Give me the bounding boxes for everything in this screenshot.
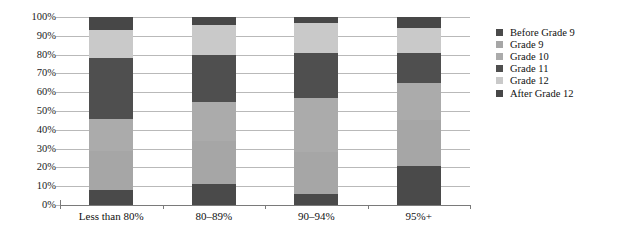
y-axis-tick-label: 0%	[4, 200, 56, 210]
y-axis-tick-label: 70%	[4, 68, 56, 78]
y-axis-tick-label: 60%	[4, 87, 56, 97]
y-axis-tick-label: 100%	[4, 12, 56, 22]
legend-swatch-icon	[496, 53, 503, 60]
x-axis-tick-mark	[470, 205, 471, 209]
bar-segment	[294, 152, 338, 193]
bar-segment	[89, 17, 133, 30]
y-axis-tick-label: 40%	[4, 125, 56, 135]
x-axis-tick-mark	[163, 205, 164, 209]
bar-segment	[397, 83, 441, 121]
y-axis-tick-mark	[56, 92, 60, 93]
bar-segment	[294, 23, 338, 53]
bar-segment	[192, 102, 236, 141]
y-axis-tick-mark	[56, 73, 60, 74]
legend-item[interactable]: Before Grade 9	[496, 26, 614, 38]
bar-segment	[397, 17, 441, 28]
bar-segment	[294, 98, 338, 153]
legend-item[interactable]: Grade 12	[496, 75, 614, 87]
y-axis-tick-mark	[56, 36, 60, 37]
bar-segment	[89, 151, 133, 190]
bar-segment	[397, 166, 441, 205]
bar-segment	[89, 190, 133, 205]
bar-segment	[192, 141, 236, 184]
legend-swatch-icon	[496, 65, 503, 72]
bar-segment	[397, 53, 441, 83]
y-axis-tick-label: 90%	[4, 31, 56, 41]
x-axis-tick-label: 95%+	[368, 209, 471, 223]
bar-column	[89, 17, 133, 205]
y-axis-tick-label: 10%	[4, 181, 56, 191]
y-axis-tick-mark	[56, 111, 60, 112]
x-axis-tick-label: 80–89%	[163, 209, 266, 223]
legend-item-label: Grade 9	[510, 39, 544, 50]
legend-item-label: Before Grade 9	[510, 27, 575, 38]
bar-column	[294, 17, 338, 205]
chart-legend: Before Grade 9Grade 9Grade 10Grade 11Gra…	[496, 26, 614, 99]
bar-segment	[89, 119, 133, 151]
bar-segment	[397, 28, 441, 52]
y-axis-tick-mark	[56, 130, 60, 131]
legend-item-label: Grade 11	[510, 63, 548, 74]
legend-item-label: Grade 10	[510, 51, 549, 62]
plot-area	[60, 17, 470, 205]
y-axis-tick-label: 80%	[4, 50, 56, 60]
bar-column	[192, 17, 236, 205]
x-axis-tick-label: Less than 80%	[60, 209, 163, 223]
legend-item[interactable]: Grade 11	[496, 63, 614, 75]
y-axis-tick-label: 30%	[4, 144, 56, 154]
bar-column	[397, 17, 441, 205]
bar-segment	[294, 194, 338, 205]
bar-segment	[192, 55, 236, 102]
y-axis-tick-mark	[56, 149, 60, 150]
legend-item[interactable]: Grade 10	[496, 50, 614, 62]
stacked-bar-chart: 0%10%20%30%40%50%60%70%80%90%100% Less t…	[0, 0, 618, 240]
legend-item-label: After Grade 12	[510, 88, 574, 99]
bar-segment	[192, 17, 236, 25]
y-axis-tick-mark	[56, 186, 60, 187]
legend-item[interactable]: After Grade 12	[496, 87, 614, 99]
x-axis-tick-mark	[265, 205, 266, 209]
legend-swatch-icon	[496, 90, 503, 97]
bar-segment	[89, 58, 133, 118]
bar-group	[60, 17, 470, 205]
legend-item[interactable]: Grade 9	[496, 38, 614, 50]
legend-swatch-icon	[496, 29, 503, 36]
bar-segment	[89, 30, 133, 58]
bar-segment	[192, 184, 236, 205]
bar-segment	[397, 120, 441, 165]
y-axis-labels: 0%10%20%30%40%50%60%70%80%90%100%	[0, 17, 56, 205]
legend-swatch-icon	[496, 41, 503, 48]
y-axis-tick-mark	[56, 167, 60, 168]
y-axis-tick-label: 20%	[4, 162, 56, 172]
legend-item-label: Grade 12	[510, 75, 549, 86]
x-axis-tick-label: 90–94%	[265, 209, 368, 223]
legend-swatch-icon	[496, 77, 503, 84]
y-axis-tick-mark	[56, 17, 60, 18]
y-axis-tick-mark	[56, 55, 60, 56]
bar-segment	[192, 25, 236, 55]
x-axis-labels: Less than 80%80–89%90–94%95%+	[60, 209, 470, 229]
y-axis-tick-label: 50%	[4, 106, 56, 116]
x-axis-tick-mark	[368, 205, 369, 209]
x-axis-tick-mark	[60, 205, 61, 209]
bar-segment	[294, 53, 338, 98]
